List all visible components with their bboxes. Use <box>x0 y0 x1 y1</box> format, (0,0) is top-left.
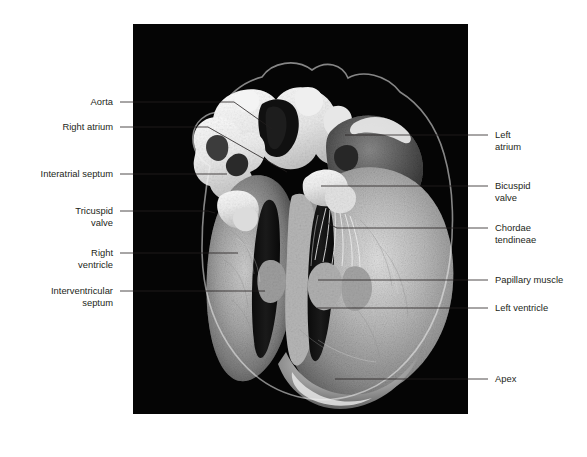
figure-container: AortaRight atriumInteratrial septumTricu… <box>0 0 587 457</box>
label-interatrial-septum: Interatrial septum <box>41 168 114 179</box>
labeled-heart-figure: AortaRight atriumInteratrial septumTricu… <box>0 0 587 457</box>
label-line: Left ventricle <box>495 302 548 313</box>
label-line: Apex <box>495 373 517 384</box>
label-line: Interatrial septum <box>41 168 114 179</box>
label-line: ventricle <box>78 259 113 270</box>
label-line: valve <box>91 217 113 228</box>
heart-photograph <box>133 24 468 414</box>
label-papillary-muscle: Papillary muscle <box>495 274 563 285</box>
label-line: Right <box>91 247 113 258</box>
label-aorta: Aorta <box>91 96 114 107</box>
label-line: Left <box>495 129 511 140</box>
label-line: Interventricular <box>51 285 113 296</box>
label-line: septum <box>82 297 113 308</box>
label-right-atrium: Right atrium <box>62 121 113 132</box>
label-line: Papillary muscle <box>495 274 563 285</box>
label-line: Bicuspid <box>495 180 530 191</box>
label-line: Chordae <box>495 222 531 233</box>
label-line: Aorta <box>91 96 114 107</box>
label-line: tendineae <box>495 234 536 245</box>
label-chordae-tendineae: Chordaetendineae <box>495 222 536 245</box>
label-line: valve <box>495 192 517 203</box>
label-line: atrium <box>495 141 521 152</box>
label-apex: Apex <box>495 373 517 384</box>
label-left-ventricle: Left ventricle <box>495 302 548 313</box>
label-line: Tricuspid <box>75 205 113 216</box>
label-line: Right atrium <box>62 121 113 132</box>
bicuspid-valve-leaflet-posterior <box>325 184 356 214</box>
